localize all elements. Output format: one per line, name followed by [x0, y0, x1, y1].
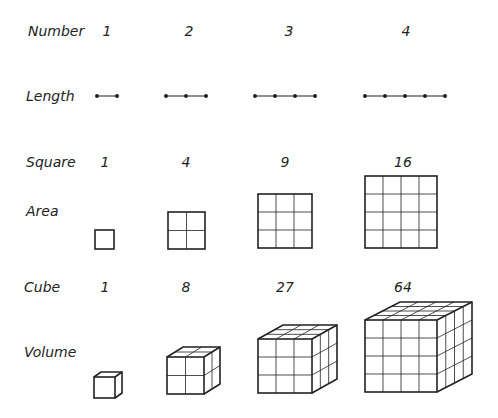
length-dot [293, 94, 297, 98]
length-dot [184, 94, 188, 98]
cube-outline [258, 325, 337, 393]
length-dot [273, 94, 277, 98]
cube-front [258, 339, 312, 393]
length-dot [204, 94, 208, 98]
length-dot [443, 94, 447, 98]
cube-front [94, 377, 115, 398]
length-dot [115, 94, 119, 98]
length-dot [363, 94, 367, 98]
length-dot [423, 94, 427, 98]
diagram-figures [0, 0, 498, 418]
length-dot [313, 94, 317, 98]
length-dot [95, 94, 99, 98]
length-dot [383, 94, 387, 98]
length-dot [164, 94, 168, 98]
area-square [258, 194, 312, 248]
area-square [95, 230, 114, 249]
length-dot [403, 94, 407, 98]
length-dot [253, 94, 257, 98]
